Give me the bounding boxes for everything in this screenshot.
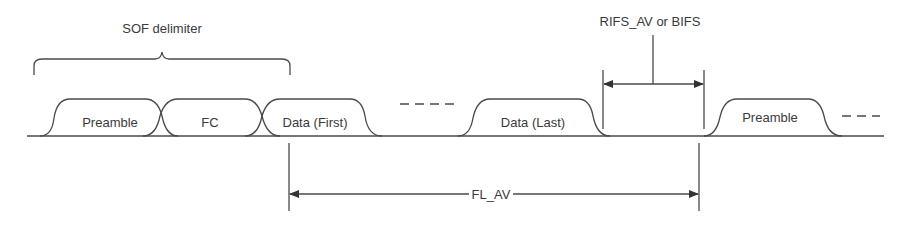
- frame-length-label: FL_AV: [472, 187, 511, 202]
- sof-brace: [34, 52, 290, 75]
- pulse-label-fc: FC: [201, 115, 218, 130]
- gap-label: RIFS_AV or BIFS: [600, 14, 701, 29]
- pulse-label-data-first: Data (First): [283, 115, 348, 130]
- pulse-label-preamble-2: Preamble: [742, 110, 798, 125]
- frame-timing-diagram: SOF delimiter Preamble FC Data (First) D…: [0, 0, 901, 229]
- pulse-label-data-last: Data (Last): [501, 115, 565, 130]
- sof-delimiter-label: SOF delimiter: [122, 21, 202, 36]
- pulse-label-preamble-1: Preamble: [82, 115, 138, 130]
